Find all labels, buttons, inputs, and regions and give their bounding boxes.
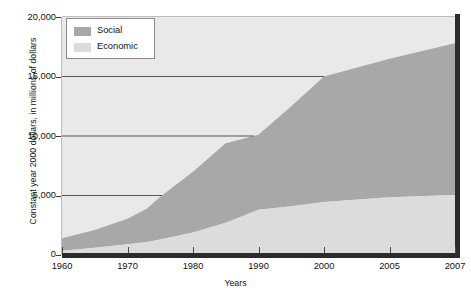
x-tick-mark-1970 (128, 247, 129, 253)
y-tick-label-15000: 15,000 (10, 72, 56, 81)
chart-figure: Constant year 2000 dollars, in millions … (0, 0, 471, 294)
x-tick-mark-2007 (455, 247, 456, 253)
y-tick-label-10000: 10,000 (10, 132, 56, 141)
legend-label-social: Social (97, 26, 122, 35)
x-tick-label-2005: 2005 (360, 262, 420, 271)
x-tick-label-1970: 1970 (98, 262, 158, 271)
x-axis-title: Years (0, 278, 471, 288)
chart-legend: Social Economic (66, 18, 155, 59)
y-tick-label-5000: 5,000 (10, 191, 56, 200)
x-axis-line (62, 253, 460, 258)
y-tick-label-20000: 20,000 (10, 13, 56, 22)
y-axis-tick-labels: 20,000 15,000 10,000 5,000 0 (8, 0, 56, 294)
x-tick-label-2007: 2007 (425, 262, 471, 271)
legend-swatch-social (74, 27, 91, 36)
legend-label-economic: Economic (97, 42, 138, 51)
legend-swatch-economic (74, 43, 91, 52)
x-tick-label-1980: 1980 (163, 262, 223, 271)
plot-border-left (61, 17, 62, 255)
x-tick-mark-1960 (62, 247, 63, 253)
y-tick-mark-0 (56, 255, 61, 256)
x-tick-mark-2005 (390, 247, 391, 253)
x-tick-label-2000: 2000 (294, 262, 354, 271)
legend-item-economic: Economic (74, 39, 154, 55)
x-tick-mark-1990 (259, 247, 260, 253)
plot-border-top (62, 16, 455, 17)
x-tick-mark-2000 (324, 247, 325, 253)
x-tick-mark-1980 (193, 247, 194, 253)
y-axis-line (455, 14, 460, 258)
x-tick-label-1960: 1960 (32, 262, 92, 271)
legend-item-social: Social (74, 23, 154, 39)
x-tick-label-1990: 1990 (229, 262, 289, 271)
y-tick-label-0: 0 (10, 250, 56, 259)
